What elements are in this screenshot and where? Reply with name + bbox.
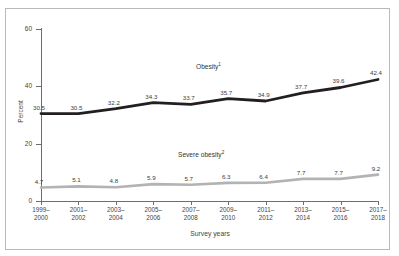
severe-obesity-series-label: Severe obesity2 [178, 150, 224, 158]
plot-area: Percent Survey years 0204060 1999–200020… [0, 0, 399, 256]
obesity-point-label: 42.4 [363, 69, 389, 76]
severe-obesity-point-label: 5.9 [138, 174, 164, 181]
severe-obesity-point-label: 5.7 [176, 175, 202, 182]
obesity-point-label: 35.7 [213, 89, 239, 96]
obesity-line [41, 80, 378, 114]
figure: Percent Survey years 0204060 1999–200020… [0, 0, 399, 256]
obesity-point-label: 30.5 [63, 104, 89, 111]
severe-obesity-point-label: 5.1 [63, 176, 89, 183]
severe-obesity-point-label: 4.7 [26, 178, 52, 185]
obesity-point-label: 33.7 [176, 94, 202, 101]
severe-obesity-point-label: 9.2 [363, 165, 389, 172]
severe-obesity-point-label: 7.7 [326, 169, 352, 176]
obesity-point-label: 32.2 [101, 99, 127, 106]
obesity-point-label: 37.7 [288, 83, 314, 90]
severe-obesity-point-label: 6.3 [213, 173, 239, 180]
series-layer [0, 0, 399, 256]
obesity-series-label: Obesity1 [196, 62, 221, 70]
obesity-point-label: 39.6 [326, 77, 352, 84]
severe-obesity-point-label: 4.8 [101, 177, 127, 184]
obesity-point-label: 34.3 [138, 93, 164, 100]
obesity-point-label: 34.9 [251, 91, 277, 98]
severe-obesity-point-label: 6.4 [251, 173, 277, 180]
severe-obesity-point-label: 7.7 [288, 169, 314, 176]
severe-obesity-line [41, 175, 378, 188]
obesity-point-label: 30.5 [26, 104, 52, 111]
